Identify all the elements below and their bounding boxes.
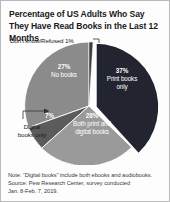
- callout-dont-know-refused: Don't know/Refused 1%: [10, 37, 102, 45]
- slice-label-no-books: 27% No books: [43, 63, 85, 79]
- footnote-dates: Jan. 8-Feb. 7, 2019.: [8, 187, 164, 195]
- chart-footnote: Note: “Digital books” include both ebook…: [8, 171, 164, 195]
- callout-digital-line1: Digital: [9, 123, 55, 131]
- pie-chart-svg: [1, 37, 170, 165]
- slice-label-print-books-only: 37% Print books only: [99, 67, 145, 91]
- callout-digital-line2: books only: [9, 131, 55, 139]
- callout-digital-books-only: Digital books only: [9, 123, 55, 139]
- footnote-note: Note: “Digital books” include both ebook…: [8, 171, 164, 179]
- chart-plot-area: 37% Print books only 27% No books 28% Bo…: [1, 37, 170, 165]
- pie-slice-dont-know-refused[interactable]: [89, 42, 93, 106]
- slice-label-digital-books-only-pct: 7%: [45, 112, 65, 119]
- slice-label-both-print-and-digital: 28% Both print and digital books: [61, 112, 123, 136]
- footnote-source: Source: Pew Research Center, survey cond…: [8, 179, 164, 187]
- pew-pie-chart-figure: Percentage of US Adults Who Say They Hav…: [0, 0, 170, 202]
